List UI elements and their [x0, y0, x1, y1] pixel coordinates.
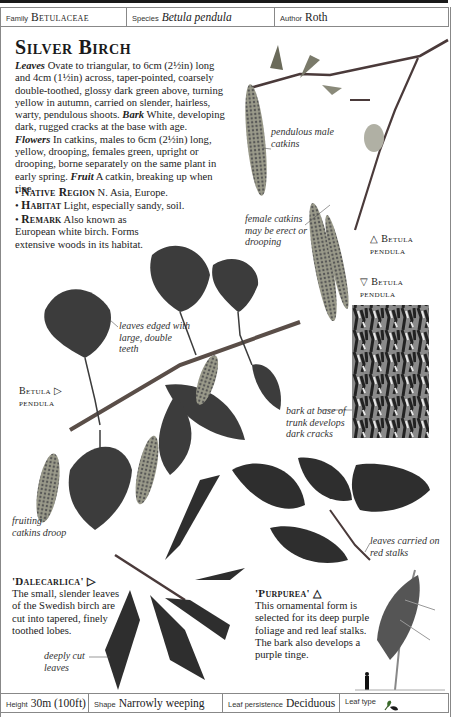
- footer-bar: Height 30m (100ft) Shape Narrowly weepin…: [0, 693, 449, 713]
- annotation-female-catkins: female catkins may be erect or drooping: [245, 213, 310, 248]
- caption-branch: Betula ▷ pendula: [19, 385, 73, 408]
- fact-habitat: • Habitat Light, especially sandy, soil.: [15, 199, 225, 212]
- height-value: 30m (100ft): [31, 697, 86, 709]
- persistence-value: Deciduous: [286, 697, 335, 709]
- leaf-type-icon: [383, 698, 403, 712]
- facts-list: • Native Region N. Asia, Europe. • Habit…: [15, 186, 225, 251]
- bark-heading: Bark: [122, 109, 144, 120]
- variety-purpurea-name: 'Purpurea' △: [255, 587, 373, 600]
- flowers-heading: Flowers: [15, 134, 50, 145]
- annotation-male-catkins: pendulous male catkins: [271, 126, 339, 149]
- persistence-label: Leaf persistence: [228, 700, 283, 709]
- height-cell: Height 30m (100ft): [1, 694, 89, 712]
- leaftype-cell: Leaf type: [340, 694, 448, 712]
- description: Leaves Ovate to triangular, to 6cm (2½in…: [15, 60, 225, 195]
- caption-bark-photo: ▽ Betula pendula: [360, 276, 430, 299]
- variety-purpurea: 'Purpurea' △ This ornamental form is sel…: [255, 587, 373, 661]
- caption-shoot: △ Betula pendula: [370, 233, 440, 256]
- variety-dalecarlica: 'Dalecarlica' ▷ The small, slender leave…: [12, 575, 127, 637]
- variety-dalecarlica-name: 'Dalecarlica' ▷: [12, 575, 127, 588]
- fact-native-region: • Native Region N. Asia, Europe.: [15, 186, 225, 199]
- annotation-fruiting-catkins: fruiting catkins droop: [12, 515, 72, 538]
- variety-purpurea-text: This ornamental form is selected for its…: [255, 600, 373, 661]
- annotation-deeply-cut: deeply cut leaves: [44, 650, 89, 673]
- fruit-heading: Fruit: [71, 171, 94, 182]
- annotation-leaves-edged: leaves edged with large, double teeth: [119, 320, 191, 355]
- leaftype-label: Leaf type: [345, 697, 376, 706]
- fact-remark: • Remark Also known as European white bi…: [15, 213, 145, 251]
- annotation-red-stalks: leaves carried on red stalks: [370, 535, 442, 558]
- shape-cell: Shape Narrowly weeping: [89, 694, 223, 712]
- persistence-cell: Leaf persistence Deciduous: [223, 694, 340, 712]
- bark-photo: [352, 305, 429, 438]
- leaves-heading: Leaves: [15, 60, 45, 71]
- variety-dalecarlica-text: The small, slender leaves of the Swedish…: [12, 588, 127, 637]
- annotation-bark: bark at base of trunk develops dark crac…: [286, 405, 346, 440]
- shape-label: Shape: [94, 700, 116, 709]
- person-scale-figure: [365, 676, 369, 690]
- height-label: Height: [6, 700, 28, 709]
- shape-value: Narrowly weeping: [119, 697, 205, 709]
- page-title: Silver Birch: [15, 36, 131, 59]
